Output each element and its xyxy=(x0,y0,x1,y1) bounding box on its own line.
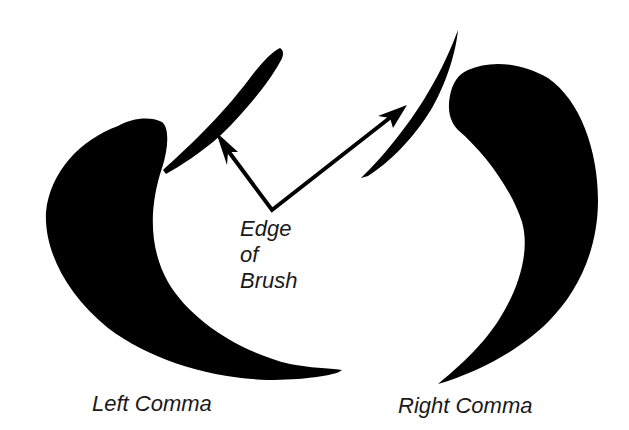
arrow-lines xyxy=(226,113,396,210)
right-brush-edge xyxy=(361,30,458,178)
annotation-line-1: Edge xyxy=(240,216,297,242)
annotation-line-2: of xyxy=(240,242,297,268)
left-comma-stroke xyxy=(46,119,342,380)
edge-of-brush-annotation: Edge of Brush xyxy=(240,216,297,294)
comma-diagram xyxy=(0,0,629,430)
right-comma-label: Right Comma xyxy=(398,394,532,418)
right-comma-stroke xyxy=(438,64,598,384)
arrows xyxy=(226,113,396,210)
annotation-line-3: Brush xyxy=(240,268,297,294)
left-brush-edge xyxy=(163,48,283,174)
left-comma-label: Left Comma xyxy=(92,392,212,416)
